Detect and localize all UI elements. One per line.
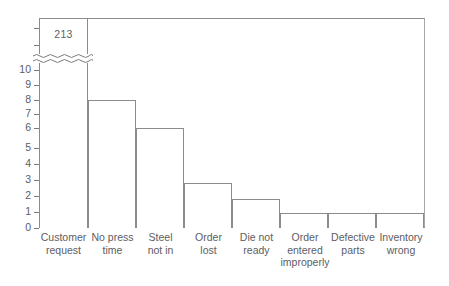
x-label-line: lost <box>181 244 236 257</box>
y-tick-label: 3 <box>25 173 31 185</box>
x-label-line: Order <box>181 231 236 244</box>
y-tick-label: 0 <box>25 221 31 233</box>
x-label-line: wrong <box>372 244 430 257</box>
bar-order-entered-improperly <box>280 213 328 228</box>
x-label-order-lost: Order lost <box>181 231 236 256</box>
y-tick-mark <box>34 228 39 229</box>
x-label-steel-not-in: Steel not in <box>133 231 188 256</box>
x-label-no-press-time: No press time <box>85 231 140 256</box>
y-tick-label: 7 <box>25 107 31 119</box>
x-label-line: Customer <box>36 231 91 244</box>
bar-steel-not-in <box>136 128 184 228</box>
bar-customer-request: 213 <box>39 18 88 228</box>
x-axis-category-labels: Customer request No press time Steel not… <box>39 231 425 283</box>
bar-no-press-time <box>88 100 136 228</box>
y-tick-label: 8 <box>25 93 31 105</box>
y-tick-label: 10 <box>19 63 31 75</box>
pareto-bar-chart: 0 1 2 3 4 5 6 7 <box>0 0 449 286</box>
x-label-inventory-wrong: Inventory wrong <box>372 231 430 256</box>
bar-die-not-ready <box>232 199 280 228</box>
y-tick-label: 1 <box>25 205 31 217</box>
x-label-line: request <box>36 244 91 257</box>
y-axis: 0 1 2 3 4 5 6 7 <box>0 0 39 286</box>
y-tick-label: 2 <box>25 189 31 201</box>
y-tick-label: 6 <box>25 121 31 133</box>
x-label-line: No press <box>85 231 140 244</box>
y-tick-label: 9 <box>25 78 31 90</box>
x-label-line: Inventory <box>372 231 430 244</box>
bar-inventory-wrong <box>376 213 424 228</box>
bar-value-label: 213 <box>40 28 87 40</box>
x-label-customer-request: Customer request <box>36 231 91 256</box>
x-label-line: improperly <box>275 256 335 269</box>
x-label-line: not in <box>133 244 188 257</box>
bar-defective-parts <box>328 213 376 228</box>
x-label-line: Steel <box>133 231 188 244</box>
y-tick-label: 4 <box>25 157 31 169</box>
x-label-line: time <box>85 244 140 257</box>
y-tick-label: 5 <box>25 141 31 153</box>
bar-series: 213 <box>39 18 425 228</box>
bar-order-lost <box>184 183 232 228</box>
